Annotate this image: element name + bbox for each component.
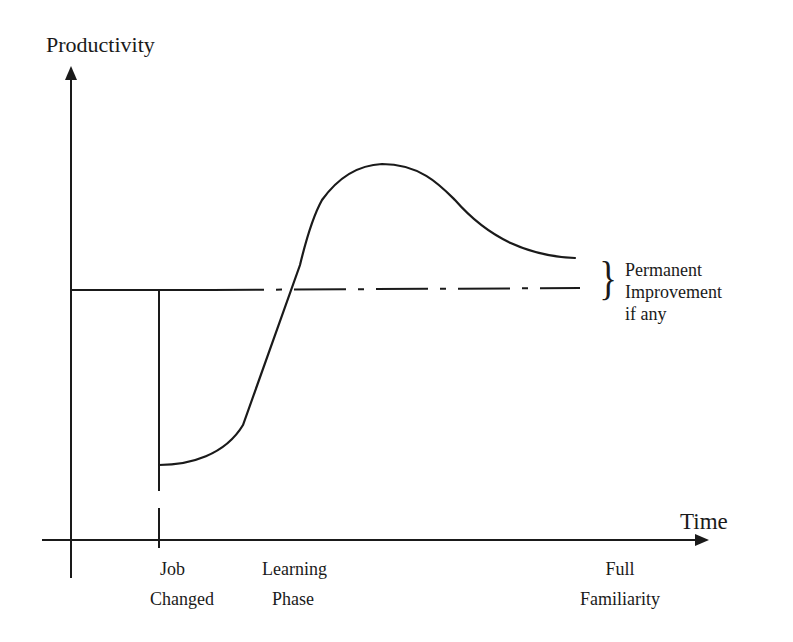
tick-label-line: Changed <box>150 584 240 614</box>
annotation-line: if any <box>625 303 722 325</box>
tick-label-job-changed: Job Changed <box>150 554 240 614</box>
tick-label-line: Phase <box>262 584 362 614</box>
tick-label-line: Learning <box>262 554 362 584</box>
tick-label-full-familiarity: Full Familiarity <box>560 554 680 614</box>
x-axis-label: Time <box>680 510 728 533</box>
baseline-dash-dot <box>212 288 580 290</box>
tick-label-learning-phase: Learning Phase <box>262 554 362 614</box>
curly-brace-icon: } <box>599 256 617 302</box>
productivity-curve <box>159 164 575 465</box>
y-axis-label: Productivity <box>46 34 155 56</box>
tick-label-line: Job <box>150 554 240 584</box>
permanent-improvement-annotation: Permanent Improvement if any <box>625 259 722 325</box>
annotation-line: Improvement <box>625 281 722 303</box>
tick-label-line: Full <box>560 554 680 584</box>
tick-label-line: Familiarity <box>560 584 680 614</box>
annotation-line: Permanent <box>625 259 722 281</box>
